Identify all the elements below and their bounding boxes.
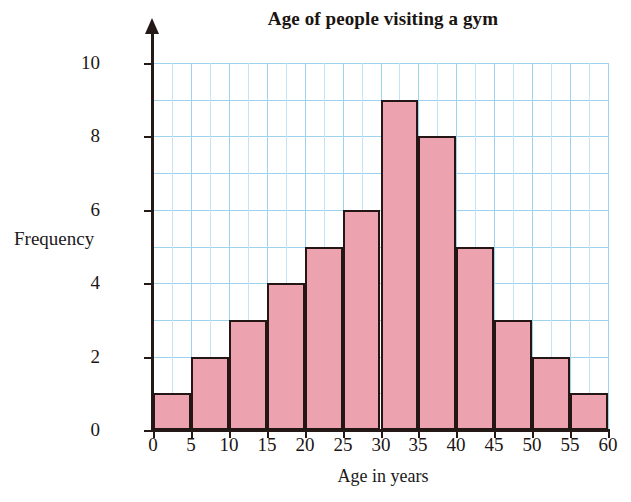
bar bbox=[456, 247, 494, 431]
bar bbox=[191, 357, 229, 430]
y-tick-mark bbox=[144, 63, 154, 65]
histogram-figure: Age of people visiting a gym Frequency A… bbox=[0, 0, 631, 502]
bar bbox=[343, 210, 381, 430]
x-tick-label: 5 bbox=[186, 434, 196, 456]
x-tick-label: 30 bbox=[372, 434, 391, 456]
gridline-vertical bbox=[589, 63, 590, 430]
y-tick-label-text: 6 bbox=[91, 199, 101, 221]
x-tick-label: 40 bbox=[447, 434, 466, 456]
x-axis-title: Age in years bbox=[0, 466, 631, 487]
bar bbox=[267, 283, 305, 430]
gridline-vertical bbox=[172, 63, 173, 430]
y-tick-label-text: 4 bbox=[91, 272, 101, 294]
y-axis-line bbox=[151, 30, 154, 432]
x-tick-label: 50 bbox=[523, 434, 542, 456]
y-tick-mark bbox=[144, 283, 154, 285]
x-tick-label: 45 bbox=[485, 434, 504, 456]
bar bbox=[305, 247, 343, 431]
y-tick-mark bbox=[144, 136, 154, 138]
page-title: Age of people visiting a gym bbox=[0, 8, 631, 30]
bar bbox=[532, 357, 570, 430]
x-tick-label: 35 bbox=[409, 434, 428, 456]
bar bbox=[494, 320, 532, 430]
x-tick-label: 55 bbox=[561, 434, 580, 456]
gridline-vertical bbox=[570, 63, 571, 430]
y-tick-label-text: 10 bbox=[81, 52, 100, 74]
x-tick-label: 20 bbox=[296, 434, 315, 456]
y-axis-title: Frequency bbox=[14, 228, 94, 250]
bar bbox=[418, 136, 456, 430]
x-tick-label: 0 bbox=[148, 434, 158, 456]
y-tick-label-text: 0 bbox=[91, 419, 101, 441]
bar bbox=[153, 393, 191, 430]
y-tick-label-text: 8 bbox=[91, 125, 101, 147]
bar bbox=[570, 393, 608, 430]
x-tick-label: 15 bbox=[258, 434, 277, 456]
bar bbox=[229, 320, 267, 430]
x-tick-label: 60 bbox=[599, 434, 618, 456]
x-tick-label: 10 bbox=[220, 434, 239, 456]
x-tick-label: 25 bbox=[334, 434, 353, 456]
y-tick-label-text: 2 bbox=[91, 346, 101, 368]
y-tick-mark bbox=[144, 210, 154, 212]
bar bbox=[381, 100, 419, 430]
gridline-vertical bbox=[608, 63, 609, 430]
plot-area bbox=[153, 63, 608, 430]
y-axis-arrow-icon bbox=[145, 18, 159, 34]
y-tick-mark bbox=[144, 357, 154, 359]
